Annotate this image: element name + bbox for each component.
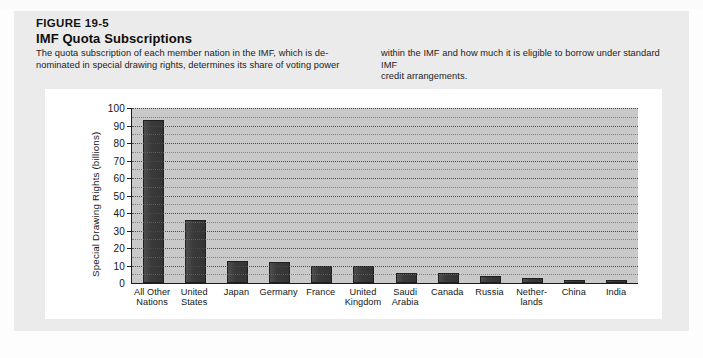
gridline <box>132 126 638 127</box>
x-axis-label-line <box>215 297 257 307</box>
gridline <box>132 187 638 188</box>
gridline <box>132 222 638 223</box>
x-axis-label-line: France <box>300 287 342 297</box>
y-axis-tick-label: 20 <box>61 243 132 254</box>
y-axis-tick-mark <box>127 196 132 197</box>
gridline <box>132 134 638 135</box>
gridline <box>132 204 638 205</box>
x-axis-label-line <box>300 297 342 307</box>
x-axis-label-line: United <box>342 287 384 297</box>
gridline <box>132 152 638 153</box>
y-axis-tick-label: 60 <box>61 173 132 184</box>
y-axis-tick-label: 50 <box>61 190 132 201</box>
gridline <box>132 257 638 258</box>
figure-title: IMF Quota Subscriptions <box>36 31 676 46</box>
x-axis-label-line <box>468 297 510 307</box>
y-axis-tick-mark <box>127 126 132 127</box>
x-axis-label: China <box>553 287 595 308</box>
x-axis-label-line: Arabia <box>384 297 426 307</box>
bar[interactable] <box>227 261 248 283</box>
y-axis-tick-mark <box>127 178 132 179</box>
x-axis-label-line: States <box>173 297 215 307</box>
gridline <box>132 274 638 275</box>
x-axis-label-line: China <box>553 287 595 297</box>
x-axis-label: Japan <box>215 287 257 308</box>
y-axis-tick-label: 100 <box>61 103 132 114</box>
gridline <box>132 143 638 144</box>
x-axis-label: India <box>595 287 637 308</box>
x-axis-label-line: India <box>595 287 637 297</box>
y-axis-tick-label: 40 <box>61 208 132 219</box>
chart-card: Special Drawing Rights (billions) 100908… <box>45 89 662 319</box>
bar[interactable] <box>480 276 501 283</box>
x-axis-label-line: lands <box>511 297 553 307</box>
bar[interactable] <box>606 280 627 283</box>
x-axis-label-line: Kingdom <box>342 297 384 307</box>
page-running-head <box>0 0 703 9</box>
gridline <box>132 178 638 179</box>
x-axis-label-line: Nether- <box>511 287 553 297</box>
x-axis-label-line: Japan <box>215 287 257 297</box>
gridline <box>132 248 638 249</box>
y-axis-tick-mark <box>127 161 132 162</box>
x-axis-label-line: Russia <box>468 287 510 297</box>
y-axis-tick-mark <box>127 213 132 214</box>
gridline <box>132 169 638 170</box>
x-axis-label: All OtherNations <box>131 287 173 308</box>
y-axis-tick-mark <box>127 231 132 232</box>
y-axis-tick-label: 90 <box>61 120 132 131</box>
caption-right-line-2: credit arrangements. <box>381 71 676 83</box>
gridline <box>132 213 638 214</box>
y-axis-tick-mark <box>127 266 132 267</box>
caption-left-line-2: nominated in special drawing rights, det… <box>36 60 381 72</box>
x-axis-label-line: Germany <box>258 287 300 297</box>
x-axis-label-line <box>426 297 468 307</box>
caption-right-text: within the IMF and how much it is eligib… <box>381 48 676 83</box>
y-axis-tick-mark <box>127 248 132 249</box>
x-axis-label-line: Nations <box>131 297 173 307</box>
x-axis-label-line: Saudi <box>384 287 426 297</box>
y-axis-tick-label: 0 <box>61 278 132 289</box>
x-axis-label: Canada <box>426 287 468 308</box>
bar[interactable] <box>522 278 543 283</box>
gridline <box>132 108 638 109</box>
gridline <box>132 161 638 162</box>
gridline <box>132 117 638 118</box>
x-axis-labels: All OtherNationsUnitedStatesJapan German… <box>131 287 637 308</box>
caption-right-line-1: within the IMF and how much it is eligib… <box>381 48 676 71</box>
x-axis-label: France <box>300 287 342 308</box>
x-axis-label-line <box>258 297 300 307</box>
x-axis-label: Nether-lands <box>511 287 553 308</box>
figure-number: FIGURE 19-5 <box>36 17 676 30</box>
x-axis-label: Germany <box>258 287 300 308</box>
x-axis-label-line: All Other <box>131 287 173 297</box>
bar[interactable] <box>143 120 164 283</box>
plot-area: 1009080706050403020100 <box>131 108 638 284</box>
x-axis-label: UnitedKingdom <box>342 287 384 308</box>
x-axis-label-line: United <box>173 287 215 297</box>
gridline <box>132 196 638 197</box>
y-axis-tick-label: 80 <box>61 138 132 149</box>
x-axis-label: UnitedStates <box>173 287 215 308</box>
gridline <box>132 231 638 232</box>
figure-panel: FIGURE 19-5 IMF Quota Subscriptions The … <box>14 11 689 331</box>
y-axis-tick-label: 10 <box>61 260 132 271</box>
x-axis-label-line <box>595 297 637 307</box>
y-axis-title: Special Drawing Rights (billions) <box>90 132 101 277</box>
x-axis-label-line <box>553 297 595 307</box>
x-axis-label-line: Canada <box>426 287 468 297</box>
caption-left-text: The quota subscription of each member na… <box>36 48 381 71</box>
gridline <box>132 239 638 240</box>
y-axis-tick-mark <box>127 143 132 144</box>
bar[interactable] <box>564 280 585 284</box>
y-axis-tick-label: 70 <box>61 155 132 166</box>
x-axis-label: SaudiArabia <box>384 287 426 308</box>
gridline <box>132 266 638 267</box>
caption-left-line-1: The quota subscription of each member na… <box>36 48 381 60</box>
y-axis-tick-label: 30 <box>61 225 132 236</box>
y-axis-tick-mark <box>127 108 132 109</box>
x-axis-label: Russia <box>468 287 510 308</box>
